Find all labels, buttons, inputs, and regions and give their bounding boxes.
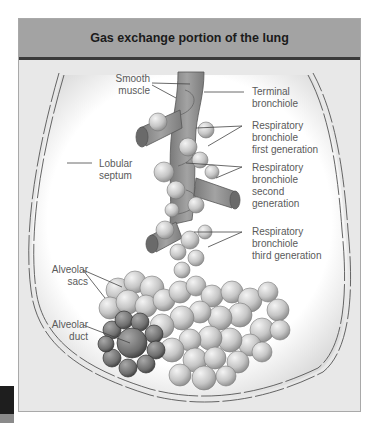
lung-illustration xyxy=(0,0,379,423)
label-lobular-septum: Lobular septum xyxy=(99,158,132,182)
label-respiratory-bronchiole-first-generation: Respiratory bronchiole first generation xyxy=(252,120,318,156)
label-smooth-muscle: Smooth muscle xyxy=(100,73,150,97)
label-terminal-bronchiole: Terminal bronchiole xyxy=(252,86,298,110)
label-respiratory-bronchiole-second-generation: Respiratory bronchiole second generation xyxy=(252,162,303,210)
label-respiratory-bronchiole-third-generation: Respiratory bronchiole third generation xyxy=(252,226,322,262)
label-alveolar-sacs: Alveolar sacs xyxy=(40,264,88,288)
label-alveolar-duct: Alveolar duct xyxy=(40,319,88,343)
